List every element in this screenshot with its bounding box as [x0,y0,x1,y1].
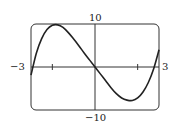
plot [0,0,173,126]
x-min-label: −3 [10,62,25,72]
y-max-label: 10 [89,13,102,23]
y-min-label: −10 [85,113,106,123]
x-max-label: 3 [162,62,168,72]
